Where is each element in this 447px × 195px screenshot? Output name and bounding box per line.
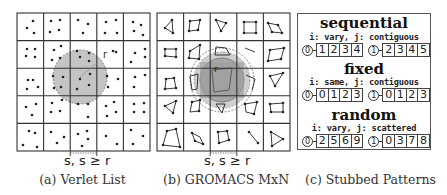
- pattern-subtitle-sequential: i: vary, j: contiguous: [298, 32, 430, 42]
- pattern-subtitle-random: i: vary, j: scattered: [298, 123, 430, 133]
- index-cell: 5: [418, 44, 429, 56]
- pattern-row-sequential: 0 1 2 3 4 1 2 3 4 5: [302, 43, 430, 57]
- index-cell: 1: [317, 44, 329, 56]
- index-cell: 2: [383, 44, 395, 56]
- index-cells: 2 5 6 9: [316, 134, 363, 148]
- panel-stubbed-patterns: sequential i: vary, j: contiguous 0 1 2 …: [297, 13, 431, 150]
- index-cells: 2 3 4 5: [382, 43, 429, 57]
- index-cell: 5: [329, 135, 341, 147]
- index-cells: 0 1 2 3: [382, 88, 429, 102]
- thread-circle: 1: [368, 45, 379, 56]
- thread-circle: 1: [368, 90, 379, 101]
- pattern-title-fixed: fixed: [298, 62, 430, 77]
- index-cells: 0 3 7 8: [382, 134, 429, 148]
- index-cell: 4: [407, 44, 419, 56]
- index-cell: 2: [317, 135, 329, 147]
- index-cell: 6: [340, 135, 352, 147]
- thread-circle: 0: [302, 90, 313, 101]
- index-cell: 2: [329, 44, 341, 56]
- index-cell: 3: [395, 44, 407, 56]
- caption-stubbed-patterns: (c) Stubbed Patterns: [305, 172, 425, 187]
- index-cell: 0: [383, 89, 395, 101]
- pattern-title-sequential: sequential: [298, 16, 430, 31]
- index-cell: 3: [418, 89, 429, 101]
- spacing-label-b: s, s ≥ r: [204, 153, 250, 168]
- thread-circle: 1: [368, 136, 379, 147]
- pattern-row-random: 0 2 5 6 9 1 0 3 7 8: [302, 134, 430, 148]
- pattern-subtitle-fixed: i: same, j: contiguous: [298, 77, 430, 87]
- index-cells: 0 1 2 3: [316, 88, 363, 102]
- index-cell: 2: [407, 89, 419, 101]
- index-cell: 3: [395, 135, 407, 147]
- index-cell: 7: [407, 135, 419, 147]
- index-cell: 2: [340, 89, 352, 101]
- index-cell: 3: [352, 89, 363, 101]
- pattern-row-fixed: 0 0 1 2 3 1 0 1 2 3: [302, 88, 430, 102]
- index-cell: 8: [418, 135, 429, 147]
- index-cell: 1: [395, 89, 407, 101]
- gromacs-grid-diagram: r: [0, 0, 300, 160]
- thread-circle: 0: [302, 136, 313, 147]
- caption-gromacs-mxn: (b) GROMACS MxN: [163, 172, 288, 187]
- radius-label-b: r: [214, 64, 218, 74]
- index-cells: 1 2 3 4: [316, 43, 363, 57]
- index-cell: 3: [340, 44, 352, 56]
- panel-gromacs-mxn: r: [0, 0, 300, 195]
- thread-circle: 0: [302, 45, 313, 56]
- index-cell: 9: [352, 135, 363, 147]
- pattern-title-random: random: [298, 108, 430, 123]
- index-cell: 4: [352, 44, 363, 56]
- index-cell: 0: [317, 89, 329, 101]
- index-cell: 1: [329, 89, 341, 101]
- index-cell: 0: [383, 135, 395, 147]
